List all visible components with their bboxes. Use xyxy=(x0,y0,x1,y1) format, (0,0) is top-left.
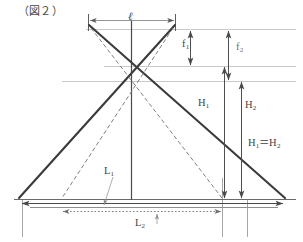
geometry-diagram-svg xyxy=(0,0,303,242)
label-f1-sub: 1 xyxy=(186,43,190,51)
equality-left-base: H xyxy=(248,137,256,148)
equality-left-sub: 1 xyxy=(256,142,260,150)
label-h2-sub: 2 xyxy=(253,104,257,112)
label-f2-sub: 2 xyxy=(240,46,244,54)
dashed-ray-bundle xyxy=(62,28,222,198)
label-ell: ℓ xyxy=(128,11,133,22)
label-h1-equals-h2: H1＝H2 xyxy=(248,138,280,149)
figure-2-container: （図２） xyxy=(0,0,303,242)
label-h2: H2 xyxy=(245,100,256,111)
equality-sign: ＝ xyxy=(259,137,269,148)
label-l2-base: L xyxy=(135,217,141,228)
label-l2-sub: 2 xyxy=(142,222,146,230)
label-l1: L1 xyxy=(104,166,114,177)
label-h2-base: H xyxy=(245,99,253,110)
equality-right-base: H xyxy=(269,137,277,148)
label-f2-base: f xyxy=(236,41,240,52)
label-h1-sub: 1 xyxy=(206,102,210,110)
label-f1-base: f xyxy=(182,38,186,49)
label-l1-sub: 1 xyxy=(111,170,115,178)
equality-right-sub: 2 xyxy=(277,142,281,150)
solid-ray-right-to-left xyxy=(19,25,175,198)
label-h1-base: H xyxy=(198,97,206,108)
reference-lines-group xyxy=(62,30,296,82)
l1-leader-line xyxy=(104,177,113,205)
label-f2: f2 xyxy=(236,42,243,53)
label-h1: H1 xyxy=(198,98,209,109)
label-f1: f1 xyxy=(182,39,189,50)
dashed-ray-right-to-left xyxy=(62,28,173,198)
label-l1-base: L xyxy=(104,165,110,176)
solid-ray-bundle xyxy=(19,25,285,198)
label-l2: L2 xyxy=(135,218,145,229)
